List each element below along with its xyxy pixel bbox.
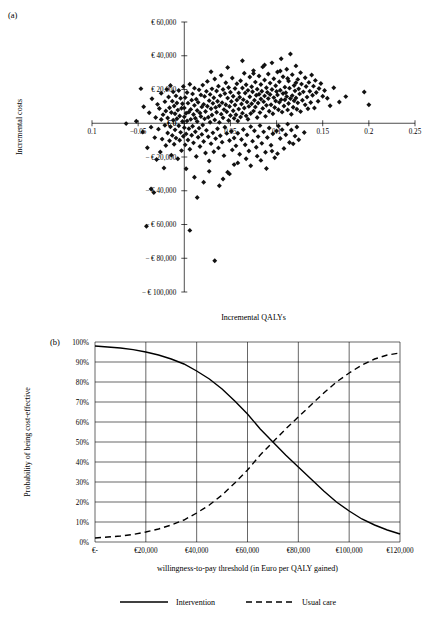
data-point <box>309 73 314 78</box>
data-point <box>173 127 178 132</box>
data-point <box>298 109 303 114</box>
data-point <box>203 151 208 156</box>
data-point <box>282 146 287 151</box>
data-point <box>166 94 171 99</box>
data-point <box>218 133 223 138</box>
data-point <box>287 86 292 91</box>
data-point <box>179 148 184 153</box>
data-point <box>178 96 183 101</box>
data-point <box>236 107 241 112</box>
data-point <box>197 87 202 92</box>
data-point <box>177 138 182 143</box>
data-point <box>198 114 203 119</box>
data-point <box>294 125 299 130</box>
data-point <box>304 84 309 89</box>
data-point <box>270 87 275 92</box>
data-point <box>253 105 258 110</box>
data-point <box>210 86 215 91</box>
data-point <box>178 130 183 135</box>
data-point <box>208 92 213 97</box>
data-point <box>212 258 217 263</box>
data-point <box>245 132 250 137</box>
data-point <box>245 100 250 105</box>
data-point <box>176 123 181 128</box>
data-point <box>325 96 330 101</box>
x-axis-title: willingness-to-pay threshold (in Euro pe… <box>157 564 338 573</box>
data-point <box>251 71 256 76</box>
data-point <box>162 99 167 104</box>
y-tick-label: 70% <box>76 399 89 407</box>
data-point <box>236 90 241 95</box>
data-point <box>247 94 252 99</box>
data-point <box>170 133 175 138</box>
data-point <box>229 99 234 104</box>
data-point <box>244 82 249 87</box>
data-point <box>331 85 336 90</box>
data-point <box>299 82 304 87</box>
y-tick-label: € 40,000 <box>151 52 177 60</box>
data-point <box>209 69 214 74</box>
data-point <box>222 153 227 158</box>
data-point <box>337 100 342 105</box>
data-point <box>215 126 220 131</box>
data-point <box>217 183 222 188</box>
data-point <box>183 95 188 100</box>
data-point <box>248 163 253 168</box>
data-point <box>242 106 247 111</box>
data-point <box>165 131 170 136</box>
data-point <box>234 143 239 148</box>
data-point <box>152 135 157 140</box>
data-point <box>192 175 197 180</box>
data-point <box>124 121 129 126</box>
y-tick-label: 60% <box>76 419 89 427</box>
data-point <box>317 86 322 91</box>
data-point <box>217 120 222 125</box>
data-point <box>258 82 263 87</box>
data-point <box>153 115 158 120</box>
data-point <box>244 156 249 161</box>
data-point <box>221 176 226 181</box>
data-point <box>289 112 294 117</box>
data-point <box>258 158 263 163</box>
y-tick-label: 90% <box>76 359 89 367</box>
data-point <box>205 79 210 84</box>
data-point <box>262 93 267 98</box>
data-point <box>208 120 213 125</box>
data-point <box>257 74 262 79</box>
data-point <box>320 94 325 99</box>
data-point <box>254 145 259 150</box>
data-point <box>222 91 227 96</box>
y-tick-label: − € 80,000 <box>145 255 176 263</box>
y-tick-label: − € 60,000 <box>145 221 176 229</box>
data-point <box>286 101 291 106</box>
data-point <box>305 95 310 100</box>
data-point <box>196 135 201 140</box>
data-point <box>225 96 230 101</box>
data-point <box>318 81 323 86</box>
y-tick-label: € 60,000 <box>151 19 177 27</box>
data-point <box>282 85 287 90</box>
data-point <box>264 103 269 108</box>
data-point <box>219 73 224 78</box>
x-tick-label: €- <box>92 547 99 555</box>
data-point <box>328 103 333 108</box>
data-point <box>235 119 240 124</box>
data-point <box>145 145 150 150</box>
data-point <box>185 90 190 95</box>
data-point <box>156 127 161 132</box>
data-point <box>278 136 283 141</box>
y-axis-title: Incremental costs <box>15 99 24 155</box>
data-point <box>230 76 235 81</box>
data-point <box>275 92 280 97</box>
data-point <box>206 134 211 139</box>
x-tick-label: €60,000 <box>236 547 260 555</box>
data-point <box>174 93 179 98</box>
data-point <box>270 111 275 116</box>
data-point <box>233 86 238 91</box>
data-point <box>197 126 202 131</box>
data-point <box>223 80 228 85</box>
data-point <box>260 106 265 111</box>
data-point <box>186 101 191 106</box>
data-point <box>160 137 165 142</box>
data-point <box>209 141 214 146</box>
